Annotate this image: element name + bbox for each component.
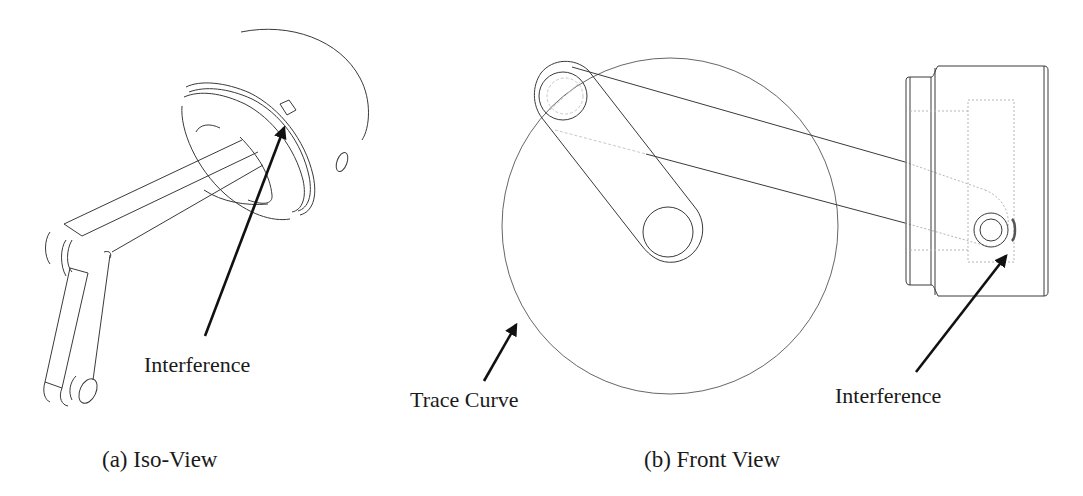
crank-pin-end xyxy=(75,376,100,406)
connecting-rod-front xyxy=(555,67,1008,247)
piston-front xyxy=(906,66,1048,296)
front-view-drawing xyxy=(484,58,1048,394)
caption-iso-view: (a) Iso-View xyxy=(102,448,217,471)
connecting-rod xyxy=(64,140,263,252)
interference-region xyxy=(280,100,296,115)
interference-label-a: Interference xyxy=(144,354,250,376)
crankshaft-hole xyxy=(643,207,693,257)
interference-arrow-a xyxy=(205,128,284,336)
crank-arm xyxy=(44,232,111,406)
wrist-pin-inner xyxy=(980,219,1002,241)
trace-curve-arrow xyxy=(484,325,516,381)
piston-body-outline xyxy=(241,29,369,140)
wrist-pin-outer xyxy=(974,213,1008,247)
iso-view-drawing xyxy=(44,29,369,406)
figure-canvas xyxy=(0,0,1083,496)
piston-skirt-flange xyxy=(182,83,315,220)
crank-arm-front xyxy=(534,61,702,262)
piston-pin-bore-hidden xyxy=(968,100,1014,262)
pin-hole xyxy=(334,151,350,173)
interference-label-b: Interference xyxy=(835,385,941,407)
interference-arrow-b xyxy=(916,256,1006,372)
caption-front-view: (b) Front View xyxy=(644,448,780,471)
trace-curve-label: Trace Curve xyxy=(410,389,519,411)
